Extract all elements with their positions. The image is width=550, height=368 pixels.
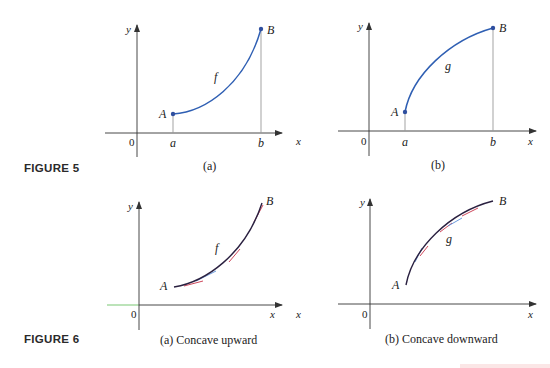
x-axis-label: x xyxy=(0,0,5,2)
x-axis-label: x xyxy=(527,308,533,320)
point-B xyxy=(259,27,263,31)
function-label-g: g xyxy=(445,59,451,73)
figure6-panel-b: x y x 0 A B g (b) Concave downward xyxy=(295,194,536,346)
point-label-B: B xyxy=(266,194,274,208)
x-axis-label-left: x xyxy=(295,308,301,320)
function-label-g: g xyxy=(446,232,452,246)
origin-label: 0 xyxy=(131,308,137,320)
panel-caption: (a) Concave upward xyxy=(160,333,257,347)
point-label-B: B xyxy=(499,194,507,208)
point-B xyxy=(491,26,495,30)
y-axis-label: y xyxy=(125,23,131,35)
figure5-panel-b: y x x 0 a b A B g (b) xyxy=(295,20,536,172)
point-label-A: A xyxy=(159,279,168,293)
figure-canvas: y x 0 a b A B f (a) FIGURE 5 y x x 0 a b… xyxy=(0,0,550,368)
figure6-panel-a: y x 0 A B f (a) Concave upward xyxy=(107,194,282,347)
point-label-B: B xyxy=(499,21,507,35)
figure6-label: FIGURE 6 xyxy=(24,333,79,345)
origin-label: 0 xyxy=(129,136,135,148)
y-axis-label: y xyxy=(127,200,133,212)
figure5-panel-a: y x 0 a b A B f (a) xyxy=(0,0,282,173)
tick-label-b: b xyxy=(490,135,496,149)
figure5-label: FIGURE 5 xyxy=(24,162,80,174)
tick-label-b: b xyxy=(258,136,264,150)
x-axis-label: x xyxy=(269,308,275,320)
point-label-A: A xyxy=(158,107,167,121)
panel-caption: (a) xyxy=(203,159,216,173)
point-label-A: A xyxy=(390,105,399,119)
origin-label: 0 xyxy=(361,135,367,147)
point-label-B: B xyxy=(267,23,275,37)
function-label-f: f xyxy=(215,241,220,255)
panel-caption: (b) Concave downward xyxy=(385,332,498,346)
origin-label: 0 xyxy=(362,308,368,320)
point-label-A: A xyxy=(391,278,400,292)
point-A xyxy=(403,110,407,114)
x-axis-label: x xyxy=(527,135,533,147)
x-axis-label-left: x xyxy=(295,135,301,147)
y-axis-label: y xyxy=(357,20,363,32)
page-edge-tint xyxy=(460,364,550,368)
y-axis-label: y xyxy=(359,196,365,208)
point-A xyxy=(171,112,175,116)
function-label-f: f xyxy=(214,70,219,84)
tick-label-a: a xyxy=(402,135,408,149)
panel-caption: (b) xyxy=(431,158,445,172)
tick-label-a: a xyxy=(170,136,176,150)
